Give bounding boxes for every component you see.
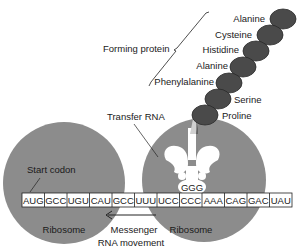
amino-acid-proline	[192, 105, 218, 125]
ribosome-right-label: Ribosome	[170, 224, 213, 235]
amino-acid-label: Phenylalanine	[154, 76, 214, 87]
transfer-rna-leader	[134, 124, 158, 157]
messenger-rna-label-line1: Messenger	[111, 224, 158, 235]
amino-acid-label: Serine	[234, 94, 261, 105]
anticodon-label: GGG	[181, 182, 203, 193]
transfer-rna-label: Transfer RNA	[107, 111, 165, 122]
start-codon-label: Start codon	[27, 164, 76, 175]
amino-acid-label: Histidine	[203, 44, 239, 55]
codon: AUG	[23, 195, 44, 206]
codon: UGU	[68, 195, 89, 206]
amino-acid-label: Proline	[222, 110, 252, 121]
protein-synthesis-diagram: Alanine Cysteine Histidine Alanine Pheny…	[0, 0, 307, 252]
codon: GCC	[113, 195, 134, 206]
codon: CAG	[225, 195, 246, 206]
messenger-rna-label-line2: RNA movement	[98, 237, 165, 248]
amino-acid-label: Alanine	[196, 60, 228, 71]
forming-protein-label: Forming protein	[103, 43, 170, 54]
codon: UAU	[271, 195, 291, 206]
codon: AAA	[204, 195, 224, 206]
codon: CCC	[180, 195, 201, 206]
amino-acid-label: Cysteine	[215, 29, 252, 40]
codon: UUU	[135, 195, 156, 206]
codon: GCC	[45, 195, 66, 206]
amino-acid-label: Alanine	[233, 13, 265, 24]
mrna-strand: AUG GCC UGU CAU GCC UUU UCC CCC AAA CAG …	[22, 193, 292, 207]
codon: UCC	[158, 195, 179, 206]
ribosome-left-label: Ribosome	[43, 224, 86, 235]
codon: GAC	[248, 195, 269, 206]
codon: CAU	[91, 195, 111, 206]
